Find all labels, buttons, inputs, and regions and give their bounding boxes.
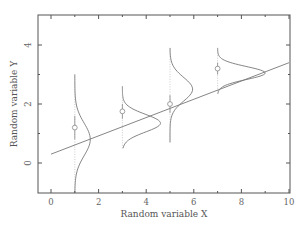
density-curve [75,75,90,193]
density-curve [122,86,160,148]
x-tick-label: 10 [284,197,295,207]
y-axis-label: Random variable Y [9,60,19,148]
data-point-marker [215,66,220,71]
y-tick-label: 0 [23,160,33,165]
density-curve [170,48,193,142]
x-tick-label: 4 [143,197,148,207]
x-axis-label: Random variable X [121,209,209,219]
data-point-marker [72,125,77,130]
density-curve [218,48,266,94]
chart: 0246810024 Random variable X Random vari… [0,0,304,234]
y-tick-label: 2 [23,101,33,106]
x-tick-label: 0 [48,197,53,207]
x-tick-label: 6 [191,197,196,207]
data-point-marker [120,109,125,114]
x-tick-label: 8 [239,197,244,207]
y-tick-label: 4 [23,42,33,47]
data-point-marker [168,102,173,107]
data-points [72,63,220,140]
conditional-densities [75,48,265,193]
x-tick-label: 2 [96,197,101,207]
axis-ticks: 0246810024 [23,15,294,207]
